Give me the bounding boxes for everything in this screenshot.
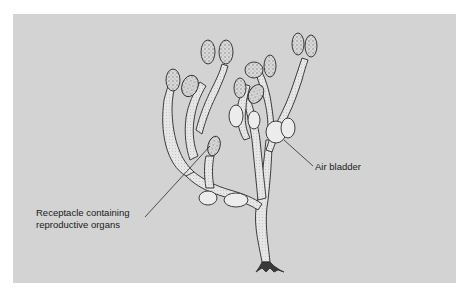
receptacle-label-line1: Receptacle containing [36,207,129,219]
receptacle-label: Receptacle containing reproductive organ… [36,207,129,231]
air-bladder-leader-line [284,140,313,166]
air-bladder-label: Air bladder [315,161,361,173]
holdfast [256,262,284,272]
receptacle-label-line2: reproductive organs [36,219,129,231]
seaweed-illustration [0,0,468,296]
